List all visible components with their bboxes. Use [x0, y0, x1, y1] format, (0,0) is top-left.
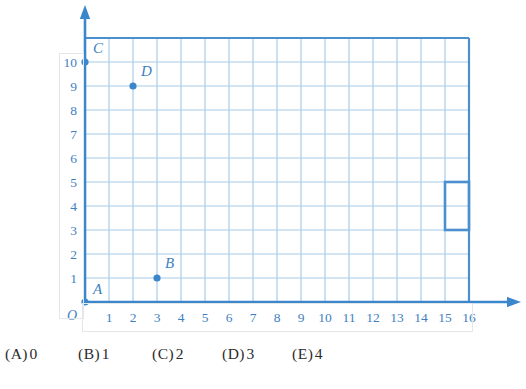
y-axis-arrowhead: [80, 5, 90, 19]
answer-choice-value: 1: [102, 345, 110, 362]
coordinate-grid-figure: 1234567891011121314151612345678910OABCD: [0, 0, 526, 389]
y-tick-label: 5: [70, 175, 77, 190]
answer-choice-value: 0: [30, 345, 38, 362]
answer-choice-c[interactable]: (C)2: [152, 345, 183, 363]
y-tick-label: 4: [70, 199, 77, 214]
answer-choice-a[interactable]: (A)0: [5, 345, 37, 363]
answer-choice-letter: (B): [78, 345, 100, 362]
answer-choice-value: 4: [315, 345, 323, 362]
y-tick-label: 3: [70, 223, 77, 238]
answer-choice-d[interactable]: (D)3: [222, 345, 254, 363]
answer-choice-b[interactable]: (B)1: [78, 345, 109, 363]
y-tick-label: 2: [70, 247, 77, 262]
answer-choice-letter: (A): [5, 345, 28, 362]
coordinate-grid-svg: 1234567891011121314151612345678910OABCD: [0, 0, 526, 389]
point-label-d: D: [140, 63, 152, 79]
origin-label: O: [67, 308, 77, 323]
y-tick-label: 8: [70, 103, 77, 118]
x-tick-label: 11: [343, 310, 356, 325]
x-axis-tick-labels: 12345678910111213141516: [106, 310, 476, 325]
x-tick-label: 5: [202, 310, 209, 325]
answer-choices-row: (A)0(B)1(C)2(D)3(E)4: [0, 345, 526, 375]
x-tick-label: 3: [154, 310, 161, 325]
x-tick-label: 2: [130, 310, 137, 325]
x-tick-label: 4: [178, 310, 185, 325]
y-axis-tick-labels: 12345678910: [64, 55, 78, 286]
x-tick-label: 14: [414, 310, 428, 325]
y-tick-label: 9: [70, 79, 77, 94]
point-label-c: C: [93, 40, 104, 56]
x-axis-arrowhead: [507, 297, 521, 307]
plotted-points: ABCD: [81, 40, 174, 306]
answer-choice-e[interactable]: (E)4: [292, 345, 323, 363]
answer-choice-letter: (D): [222, 345, 245, 362]
point-marker-a: [81, 298, 88, 305]
y-tick-label: 7: [70, 127, 77, 142]
x-tick-label: 7: [250, 310, 257, 325]
point-marker-b: [153, 274, 160, 281]
y-tick-label: 6: [70, 151, 77, 166]
x-tick-label: 12: [366, 310, 380, 325]
x-tick-label: 13: [390, 310, 404, 325]
answer-choice-value: 2: [176, 345, 184, 362]
x-tick-label: 8: [274, 310, 281, 325]
point-label-a: A: [92, 281, 103, 297]
point-marker-d: [129, 82, 136, 89]
x-tick-label: 9: [298, 310, 305, 325]
x-tick-label: 16: [462, 310, 476, 325]
x-tick-label: 10: [318, 310, 332, 325]
answer-choice-letter: (E): [292, 345, 313, 362]
x-tick-label: 6: [226, 310, 233, 325]
y-tick-label: 1: [70, 271, 77, 286]
answer-choice-value: 3: [247, 345, 255, 362]
y-tick-label: 10: [64, 55, 78, 70]
x-tick-label: 15: [438, 310, 452, 325]
point-marker-c: [81, 58, 88, 65]
x-tick-label: 1: [106, 310, 113, 325]
answer-choice-letter: (C): [152, 345, 174, 362]
point-label-b: B: [165, 255, 174, 271]
